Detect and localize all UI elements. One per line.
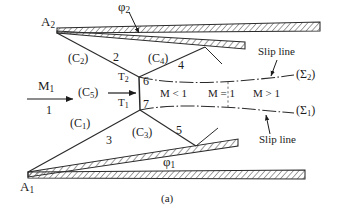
region-label-5: 5	[176, 124, 182, 136]
slip-line-annotation-lower: Slip line	[259, 134, 296, 145]
triple-point-label-t1: T1	[118, 97, 129, 110]
slip-line-label-sigma1: (Σ1)	[296, 104, 315, 118]
slip-line-sigma1	[140, 106, 294, 113]
mach-zone-sonic: M = 1	[208, 88, 235, 99]
apex-label-a2: A2	[41, 15, 55, 30]
shock-label-c3: (C3)	[132, 126, 152, 140]
shock-label-c5: (C5)	[78, 86, 98, 100]
figure-caption: (a)	[161, 193, 173, 204]
region-label-6: 6	[143, 75, 149, 87]
shock-line-mach-stem	[139, 77, 140, 110]
mach-zone-supersonic: M > 1	[253, 88, 280, 99]
shock-label-c2: (C2)	[68, 52, 88, 66]
slip-line-upper-leader	[271, 60, 277, 76]
shock-label-c1: (C1)	[70, 117, 90, 131]
angle-label-phi2: φ2	[118, 0, 130, 15]
apex-label-a1: A1	[20, 180, 34, 195]
slip-line-annotation-upper: Slip line	[258, 46, 295, 57]
region-label-2: 2	[113, 51, 119, 63]
figure-container: A2 A1 φ2 φ1 M1 1 (C2) (C1) (C5) (C3) (C4…	[0, 0, 340, 214]
region-label-4: 4	[178, 59, 184, 71]
angle-label-phi1: φ1	[163, 155, 175, 170]
region-label-1: 1	[46, 104, 52, 116]
slip-line-lower-leader	[266, 115, 270, 134]
slip-line-sigma2	[139, 75, 294, 82]
mach-zone-subsonic: M < 1	[160, 88, 187, 99]
region-label-3: 3	[106, 134, 112, 146]
shock-line-c4-reflected	[205, 47, 222, 64]
region-label-7: 7	[143, 98, 149, 110]
shock-label-c4: (C4)	[148, 52, 168, 66]
triple-point-label-t2: T2	[118, 71, 129, 84]
inlet-mach-label: M1	[38, 79, 54, 94]
slip-line-label-sigma2: (Σ2)	[296, 68, 315, 82]
